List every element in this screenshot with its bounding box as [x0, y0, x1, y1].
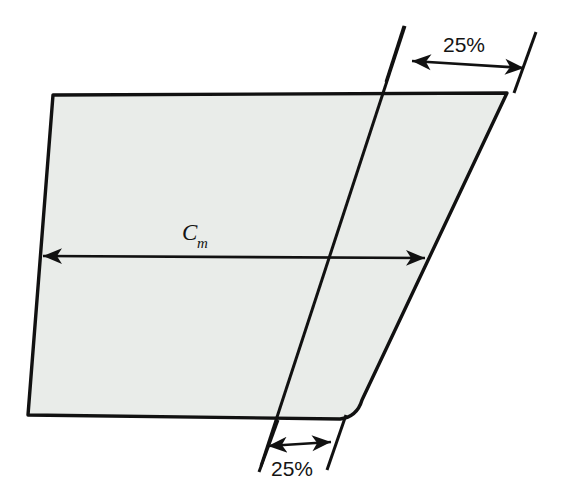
wing-planform-diagram: 25% C m 25% — [0, 0, 566, 494]
mean-chord-label-subscript: m — [197, 235, 208, 251]
top-dimension-extension-right-line — [514, 32, 536, 93]
bottom-dimension-arrow — [268, 442, 331, 446]
top-dimension-extension-left-line — [386, 26, 404, 82]
mean-chord-label: C — [182, 220, 198, 245]
top-dimension-label: 25% — [443, 33, 485, 56]
bottom-dimension-label: 25% — [271, 457, 313, 480]
top-dimension-arrow — [412, 61, 524, 68]
diagram-canvas: 25% C m 25% — [0, 0, 566, 494]
